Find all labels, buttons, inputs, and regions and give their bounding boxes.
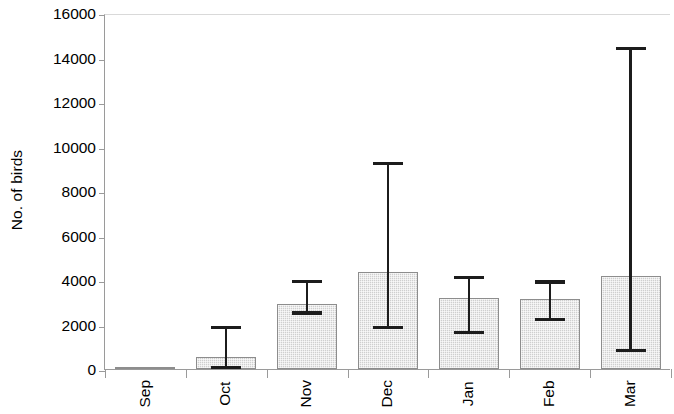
x-axis-tick-label-text: Jan xyxy=(460,381,476,406)
x-axis-tick-label: Mar xyxy=(606,372,654,414)
x-axis-tick-label-text: Oct xyxy=(218,382,234,406)
y-axis-tick-label: 2000 xyxy=(34,318,96,334)
error-bar-jan xyxy=(439,276,499,334)
y-axis-tick-label: 12000 xyxy=(34,95,96,111)
x-axis-tick-label-text: Dec xyxy=(379,380,395,408)
error-bar-feb xyxy=(520,280,580,321)
y-axis-tick-label: 16000 xyxy=(34,6,96,22)
x-axis-tick-label-text: Sep xyxy=(137,380,153,408)
x-axis-tick-label: Oct xyxy=(201,372,249,414)
error-bar-upper-cap xyxy=(373,162,403,165)
y-axis-tick-label: 14000 xyxy=(34,51,96,67)
y-axis-tick-label: 8000 xyxy=(34,184,96,200)
y-axis-tick-mark xyxy=(99,282,105,283)
x-axis-tick-label: Nov xyxy=(282,372,330,414)
y-axis-tick-label: 4000 xyxy=(34,273,96,289)
x-axis-tick-labels: SepOctNovDecJanFebMar xyxy=(104,372,670,414)
error-bar-stem xyxy=(225,326,227,369)
error-bar-nov xyxy=(277,280,337,314)
y-axis-tick-labels: 1600014000120001000080006000400020000 xyxy=(34,0,96,414)
y-axis-tick-mark xyxy=(99,193,105,194)
y-axis-tick-label: 10000 xyxy=(34,140,96,156)
error-bar-stem xyxy=(629,47,631,352)
x-axis-tick-label: Jan xyxy=(444,372,492,414)
error-bar-stem xyxy=(468,276,470,334)
error-bar-oct xyxy=(196,326,256,369)
error-bar-upper-cap xyxy=(292,280,322,283)
y-axis-tick-label: 0 xyxy=(34,362,96,378)
y-axis-title: No. of birds xyxy=(0,0,34,380)
error-bar-lower-cap xyxy=(535,318,565,321)
error-bar-stem xyxy=(387,162,389,329)
y-axis-tick-label: 6000 xyxy=(34,229,96,245)
x-axis-tick-mark xyxy=(671,369,672,378)
error-bar-stem xyxy=(306,280,308,314)
error-bar-lower-cap xyxy=(211,366,241,369)
y-axis-tick-mark xyxy=(99,15,105,16)
y-axis-tick-mark xyxy=(99,149,105,150)
error-bar-upper-cap xyxy=(211,326,241,329)
error-bar-upper-cap xyxy=(616,47,646,50)
error-bar-upper-cap xyxy=(535,280,565,283)
x-axis-tick-label-text: Mar xyxy=(622,380,638,407)
error-bar-upper-cap xyxy=(454,276,484,279)
y-axis-title-text: No. of birds xyxy=(8,150,26,230)
y-axis-tick-mark xyxy=(99,327,105,328)
x-axis-tick-label: Feb xyxy=(525,372,573,414)
x-axis-tick-label: Sep xyxy=(120,372,168,414)
error-bar-lower-cap xyxy=(454,331,484,334)
plot-area xyxy=(104,14,670,370)
x-axis-tick-label: Dec xyxy=(363,372,411,414)
error-bar-dec xyxy=(358,162,418,329)
x-axis-tick-label-text: Nov xyxy=(298,380,314,408)
y-axis-tick-mark xyxy=(99,104,105,105)
bar-chart: No. of birds 160001400012000100008000600… xyxy=(0,0,674,414)
error-bar-lower-cap xyxy=(373,326,403,329)
bar-sep xyxy=(115,367,175,369)
error-bar-mar xyxy=(601,47,661,352)
error-bar-stem xyxy=(549,280,551,321)
error-bar-lower-cap xyxy=(616,349,646,352)
y-axis-tick-mark xyxy=(99,60,105,61)
y-axis-tick-mark xyxy=(99,238,105,239)
x-axis-tick-label-text: Feb xyxy=(541,380,557,407)
error-bar-lower-cap xyxy=(292,311,322,314)
